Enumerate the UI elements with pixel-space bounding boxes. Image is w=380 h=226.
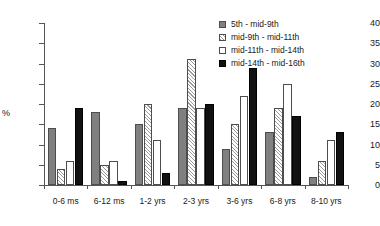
x-tick-mark — [218, 185, 219, 189]
bar — [336, 132, 344, 185]
x-tick-mark — [305, 185, 306, 189]
bar — [91, 112, 99, 185]
bar — [274, 108, 282, 185]
bar — [196, 108, 204, 185]
x-tick-label: 8-10 yrs — [305, 196, 348, 206]
bar — [57, 169, 65, 185]
bar — [309, 177, 317, 185]
x-tick-label: 6-12 ms — [87, 196, 130, 206]
legend-swatch-icon — [219, 60, 226, 67]
bar-group — [131, 23, 174, 185]
x-tick-mark — [87, 185, 88, 189]
y-tick-label: 0 — [346, 181, 380, 190]
legend-item: mid-14th - mid-16th — [219, 57, 305, 70]
bar — [318, 161, 326, 185]
x-tick-mark — [261, 185, 262, 189]
bar — [66, 161, 74, 185]
legend-item: mid-11th - mid-14th — [219, 44, 305, 57]
bar — [292, 116, 300, 185]
bar — [283, 84, 291, 185]
y-tick-label: 5 — [346, 161, 380, 170]
y-tick-label: 35 — [346, 39, 380, 48]
bar — [187, 59, 195, 185]
x-tick-label: 0-6 ms — [44, 196, 87, 206]
bar — [231, 124, 239, 185]
bar — [48, 128, 56, 185]
bar — [144, 104, 152, 185]
legend-label: mid-9th - mid-11th — [231, 33, 299, 42]
y-tick-label: 40 — [346, 19, 380, 28]
legend-swatch-icon — [219, 34, 226, 41]
legend-label: 5th - mid-9th — [231, 20, 279, 29]
bar-group — [87, 23, 130, 185]
bar — [109, 161, 117, 185]
legend-label: mid-14th - mid-16th — [231, 59, 305, 68]
bar — [265, 132, 273, 185]
bar — [205, 104, 213, 185]
x-tick-mark — [174, 185, 175, 189]
bar — [222, 149, 230, 185]
x-tick-mark — [131, 185, 132, 189]
chart-legend: 5th - mid-9thmid-9th - mid-11thmid-11th … — [219, 18, 305, 70]
y-tick-label: 25 — [346, 80, 380, 89]
y-tick-label: 30 — [346, 60, 380, 69]
legend-swatch-icon — [219, 47, 226, 54]
bar — [162, 173, 170, 185]
x-tick-mark — [44, 185, 45, 189]
x-tick-label: 1-2 yrs — [131, 196, 174, 206]
x-tick-label: 2-3 yrs — [174, 196, 217, 206]
x-tick-label: 6-8 yrs — [261, 196, 304, 206]
bar — [135, 124, 143, 185]
bar-group — [174, 23, 217, 185]
bar — [100, 165, 108, 185]
y-tick-label: 15 — [346, 120, 380, 129]
bar-group — [305, 23, 348, 185]
y-tick-label: 20 — [346, 100, 380, 109]
x-tick-mark — [348, 185, 349, 189]
legend-item: 5th - mid-9th — [219, 18, 305, 31]
bar — [75, 108, 83, 185]
y-axis-title: % — [2, 108, 10, 118]
x-tick-label: 3-6 yrs — [218, 196, 261, 206]
legend-swatch-icon — [219, 21, 226, 28]
bar — [153, 140, 161, 185]
x-axis-line — [44, 185, 349, 186]
bar — [249, 68, 257, 185]
bar — [118, 181, 126, 185]
bar-chart: % 0510152025303540 0-6 ms6-12 ms1-2 yrs2… — [0, 0, 380, 226]
legend-label: mid-11th - mid-14th — [231, 46, 304, 55]
y-tick-label: 10 — [346, 141, 380, 150]
legend-item: mid-9th - mid-11th — [219, 31, 305, 44]
bar-group — [44, 23, 87, 185]
bar — [327, 140, 335, 185]
bar — [240, 96, 248, 185]
bar — [178, 108, 186, 185]
